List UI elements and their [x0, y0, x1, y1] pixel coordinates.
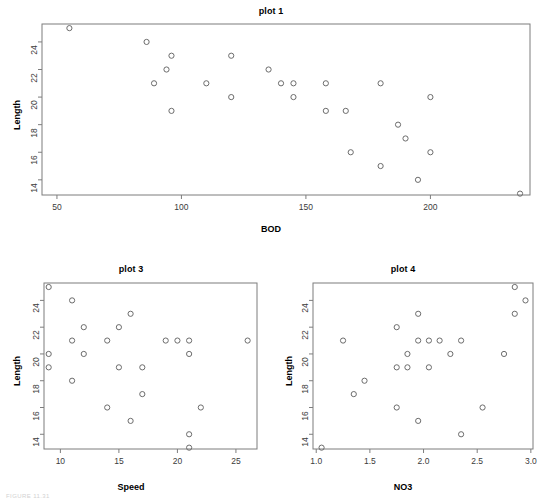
plot-1-xtick-label: 200: [410, 202, 450, 212]
plot-1-xaxis-title: BOD: [0, 224, 542, 234]
figure-caption: FIGURE 11.31: [6, 493, 50, 499]
plot-1-points: [67, 26, 523, 197]
plot-3-points: [46, 284, 250, 450]
plot-4-ytick-label: 20: [300, 353, 310, 371]
plot-4-ytick-label: 14: [300, 433, 310, 451]
plot-3-xtick-label: 15: [99, 456, 139, 466]
plot-1-ytick-label: 14: [29, 179, 39, 197]
plot-4-xtick-label: 1.5: [350, 456, 390, 466]
chart-panel-plot-3: plot 3 Speed Length 10152025141618202224: [0, 258, 272, 502]
plot-4-points: [319, 284, 528, 450]
plot-1-ytick-label: 18: [29, 124, 39, 142]
plot-4-xtick-label: 3.0: [511, 456, 542, 466]
chart-panel-plot-4: plot 4 NO3 Length 1.01.52.02.53.01416182…: [270, 258, 542, 502]
plot-3-ytick-label: 18: [31, 380, 41, 398]
plot-3-xtick-label: 10: [40, 456, 80, 466]
plot-4-xaxis-title: NO3: [270, 482, 536, 492]
plot-3-xtick-label: 25: [216, 456, 256, 466]
plot-4-xtick-label: 1.0: [296, 456, 336, 466]
plot-1-ytick-label: 20: [29, 96, 39, 114]
plot-4-ytick-label: 18: [300, 380, 310, 398]
plot-3-ytick-label: 14: [31, 433, 41, 451]
plot-4-ytick-label: 16: [300, 407, 310, 425]
plot-3-ytick-label: 20: [31, 353, 41, 371]
chart-panel-plot-1: plot 1 BOD Length 5010015020014161820222…: [0, 0, 542, 245]
plot-3-ytick-label: 22: [31, 326, 41, 344]
plot-1-xtick-label: 150: [286, 202, 326, 212]
plot-4-xtick-label: 2.0: [404, 456, 444, 466]
plot-4-ytick-label: 22: [300, 326, 310, 344]
plot-1-yaxis-title: Length: [12, 100, 22, 130]
plot-1-xtick-label: 50: [37, 202, 77, 212]
plot-3-xtick-label: 20: [157, 456, 197, 466]
plot-1-xtick-label: 100: [161, 202, 201, 212]
plot-3-yaxis-title: Length: [12, 356, 22, 386]
plot-4-yaxis-title: Length: [284, 356, 294, 386]
plot-1-ytick-label: 22: [29, 69, 39, 87]
plot-3-ytick-label: 16: [31, 407, 41, 425]
plot-3-ytick-label: 24: [31, 299, 41, 317]
plot-4-xtick-label: 2.5: [457, 456, 497, 466]
plot-1-canvas: [0, 0, 542, 245]
plot-1-ytick-label: 24: [29, 41, 39, 59]
plot-4-ytick-label: 24: [300, 299, 310, 317]
plot-3-xaxis-title: Speed: [0, 482, 262, 492]
plot-1-ytick-label: 16: [29, 151, 39, 169]
